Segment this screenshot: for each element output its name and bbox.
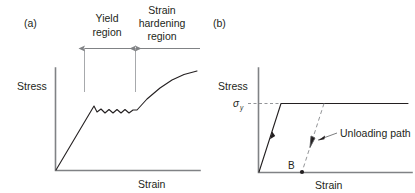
panel-a-axes <box>56 68 201 171</box>
panel-a-label: (a) <box>24 17 37 29</box>
panel-a-y-axis-label: Stress <box>17 80 47 92</box>
panel-b-y-axis-label: Stress <box>218 80 248 92</box>
stress-strain-figure: (a) Yield region Strain hardening region… <box>0 0 415 193</box>
panel-a-stress-strain-curve <box>56 71 197 170</box>
yield-stress-symbol: σ <box>233 98 240 109</box>
strain-hardening-label-line2: hardening <box>139 17 186 29</box>
unloading-direction-arrow-icon <box>310 136 315 148</box>
point-b-marker <box>300 170 304 174</box>
panel-b-x-axis-label: Strain <box>315 179 343 191</box>
strain-hardening-label-line1: Strain <box>148 4 176 16</box>
yield-region-label-line2: region <box>92 26 121 38</box>
panel-a: (a) Yield region Strain hardening region… <box>17 4 200 190</box>
panel-b-label: (b) <box>213 17 226 29</box>
strain-hardening-label-line3: region <box>147 30 176 42</box>
figure-canvas: (a) Yield region Strain hardening region… <box>0 0 415 193</box>
panel-b-axes <box>259 68 413 173</box>
panel-b: (b) Stress Strain σ y B <box>213 17 412 191</box>
unloading-path-label: Unloading path <box>340 127 411 139</box>
yield-stress-subscript: y <box>239 104 244 112</box>
point-b-label: B <box>288 160 295 171</box>
panel-a-x-axis-label: Strain <box>138 178 166 190</box>
yield-region-label-line1: Yield <box>96 12 119 24</box>
